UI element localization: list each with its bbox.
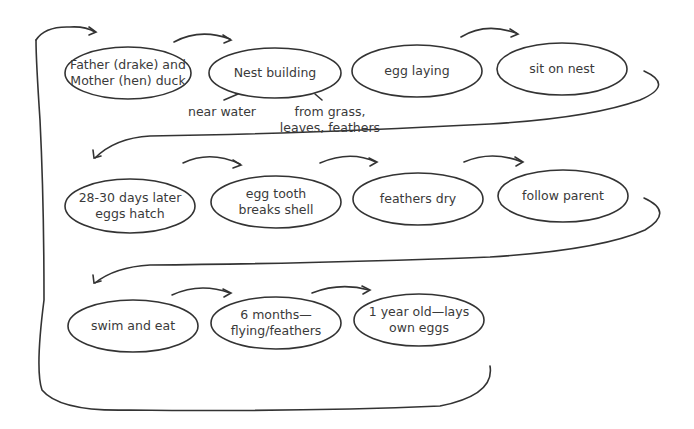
- node-follow-parent: follow parent: [498, 173, 628, 219]
- arrowhead: [223, 289, 231, 297]
- arrow-n6-n7: [320, 156, 376, 163]
- arrow-n1-n2: [174, 34, 230, 42]
- node-one-year-old: 1 year old—lays own eggs: [354, 297, 484, 343]
- arrowhead: [233, 160, 241, 168]
- arrowhead: [223, 35, 231, 43]
- node-egg-tooth: egg tooth breaks shell: [211, 179, 341, 225]
- node-feathers-dry: feathers dry: [353, 176, 483, 222]
- node-six-months: 6 months— flying/feathers: [211, 300, 341, 346]
- node-nest-building: Nest building: [209, 50, 341, 96]
- note-near-water: near water: [172, 104, 272, 120]
- arrow-n7-n8: [464, 156, 522, 162]
- arrowhead: [369, 158, 377, 166]
- arrow-n9-n10: [172, 288, 230, 295]
- arrow-n10-n11: [312, 287, 369, 293]
- note-nest-materials: from grass, leaves, feathers: [270, 104, 390, 136]
- node-swim-and-eat: swim and eat: [68, 303, 198, 349]
- node-sit-on-nest: sit on nest: [497, 46, 627, 92]
- arrow-n2-n3: [461, 28, 516, 37]
- arrow-n5-n6: [183, 157, 240, 164]
- arrow-loop-to-n1: [36, 27, 95, 40]
- node-eggs-hatch: 28-30 days later eggs hatch: [65, 183, 195, 229]
- node-egg-laying: egg laying: [352, 48, 482, 94]
- duck-life-cycle-diagram: Father (drake) and Mother (hen) duck Nes…: [0, 0, 694, 429]
- node-parent-ducks: Father (drake) and Mother (hen) duck: [65, 50, 191, 96]
